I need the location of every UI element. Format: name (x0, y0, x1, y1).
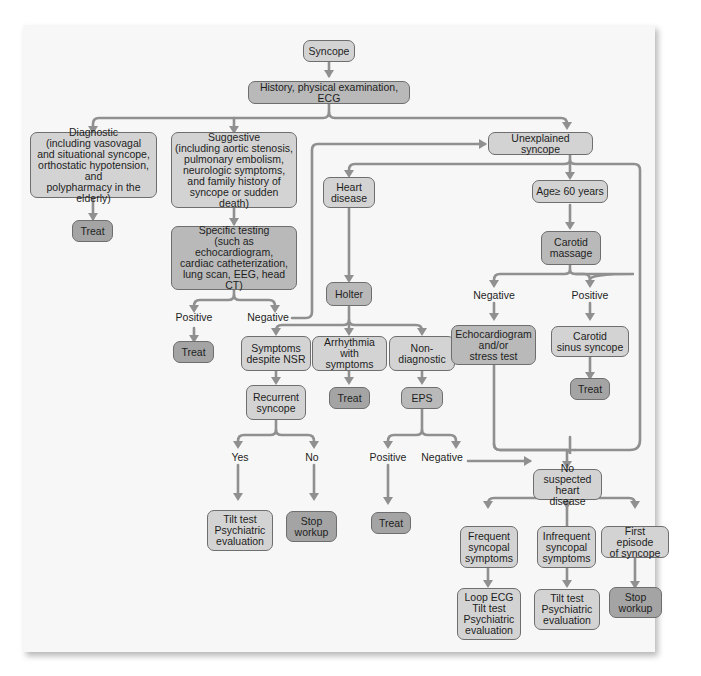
node-treat-diagnostic: Treat (72, 220, 113, 242)
node-treat-carotid: Treat (570, 378, 610, 400)
node-suggestive: Suggestive (including aortic stenosis, p… (171, 132, 297, 208)
node-stop-workup-recurrent: Stop workup (286, 511, 337, 542)
node-tilt-test-recurrent: Tilt test Psychiatric evaluation (207, 510, 273, 551)
node-treat-specific: Treat (173, 341, 214, 363)
node-treat-eps: Treat (371, 512, 411, 534)
node-tilt-test-infrequent: Tilt test Psychiatric evaluation (534, 589, 600, 630)
label-specific-positive: Positive (176, 311, 213, 323)
node-stop-workup-first: Stop workup (609, 587, 662, 618)
node-infrequent-syncopal: Infrequent syncopal symptoms (537, 526, 596, 568)
node-specific-testing: Specific testing (such as echocardiogram… (171, 226, 297, 290)
node-heart-disease: Heart disease (323, 177, 375, 208)
node-first-episode: First episode of syncope (601, 526, 669, 558)
node-symptoms-despite-nsr: Symptoms despite NSR (241, 336, 311, 371)
node-syncope: Syncope (303, 40, 355, 62)
node-echo-stress-test: Echocardiogram and/or stress test (451, 325, 536, 365)
node-treat-arrhythmia: Treat (329, 387, 370, 409)
node-arrhythmia-with-symptoms: Arrhythmia with symptoms (312, 336, 387, 371)
label-carotid-negative: Negative (473, 289, 514, 301)
node-history-exam-ecg: History, physical examination, ECG (248, 81, 410, 104)
node-frequent-syncopal: Frequent syncopal symptoms (460, 526, 518, 568)
label-specific-negative: Negative (247, 311, 288, 323)
label-eps-positive: Positive (370, 451, 407, 463)
node-eps: EPS (401, 387, 443, 409)
node-holter: Holter (326, 282, 372, 306)
node-no-suspected-heart-disease: No suspected heart disease (533, 469, 602, 500)
node-nondiagnostic: Non- diagnostic (389, 336, 455, 371)
label-carotid-positive: Positive (572, 289, 609, 301)
label-recurrent-yes: Yes (231, 451, 248, 463)
label-eps-negative: Negative (421, 451, 462, 463)
node-diagnostic: Diagnostic (including vasovagal and situ… (30, 132, 157, 198)
node-age-60: Age≥ 60 years (532, 180, 608, 203)
node-carotid-sinus-syncope: Carotid sinus syncope (551, 326, 629, 357)
node-recurrent-syncope: Recurrent syncope (246, 385, 306, 420)
label-recurrent-no: No (305, 451, 318, 463)
node-unexplained-syncope: Unexplained syncope (488, 132, 593, 155)
node-carotid-massage: Carotid massage (541, 231, 601, 265)
node-loop-ecg: Loop ECG Tilt test Psychiatric evaluatio… (457, 588, 521, 640)
